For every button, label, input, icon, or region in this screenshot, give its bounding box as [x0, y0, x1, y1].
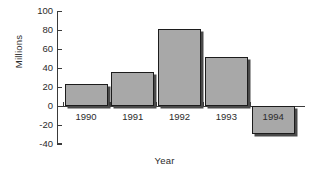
- y-tick-mark: [57, 68, 62, 69]
- y-tick-label: 60: [42, 44, 53, 54]
- bar: [205, 57, 248, 106]
- x-tick-mark: [250, 102, 251, 107]
- y-tick-label: 100: [37, 6, 53, 16]
- bar: [111, 72, 154, 106]
- bar: [158, 29, 201, 106]
- y-tick-label: -20: [39, 120, 53, 130]
- plot-area: -40-20020406080100 19901991199219931994: [57, 11, 305, 144]
- bar: [65, 84, 108, 106]
- x-tick-mark: [156, 102, 157, 107]
- x-tick-label: 1994: [243, 112, 303, 122]
- x-tick-mark: [109, 102, 110, 107]
- y-axis-title: Millions: [13, 17, 24, 87]
- x-axis-title: Year: [0, 155, 329, 166]
- bar-chart: Millions -40-20020406080100 199019911992…: [0, 0, 329, 178]
- y-tick-mark: [57, 49, 62, 50]
- y-tick-label: 20: [42, 82, 53, 92]
- x-tick-mark: [203, 102, 204, 107]
- y-tick-label: -40: [39, 139, 53, 149]
- y-tick-mark: [57, 87, 62, 88]
- y-tick-mark: [57, 125, 62, 126]
- y-tick-label: 0: [48, 101, 53, 111]
- y-tick-label: 40: [42, 63, 53, 73]
- y-tick-mark: [57, 144, 62, 145]
- x-tick-mark: [63, 102, 64, 107]
- y-tick-label: 80: [42, 25, 53, 35]
- y-tick-mark: [57, 11, 62, 12]
- y-tick-mark: [57, 30, 62, 31]
